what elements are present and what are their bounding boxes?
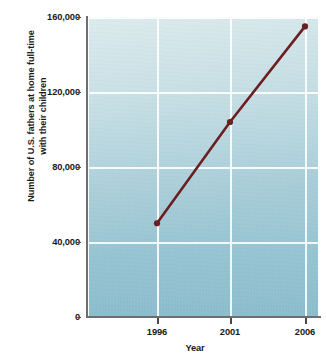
plot-area	[89, 17, 318, 317]
chart-figure: Number of U.S. fathers at home full-time…	[0, 0, 326, 361]
x-tick-mark	[157, 318, 159, 324]
y-tick-label: 160,000	[26, 12, 80, 22]
y-tick-label: 0	[26, 312, 80, 322]
y-tick-mark	[76, 167, 81, 168]
data-series	[89, 17, 318, 317]
x-axis-title: Year	[0, 343, 326, 353]
x-tick-label: 2001	[200, 327, 260, 337]
x-tick-label: 2006	[275, 327, 326, 337]
y-tick-label: 120,000	[26, 87, 80, 97]
x-tick-mark	[305, 318, 307, 324]
y-tick-mark	[76, 92, 81, 93]
x-tick-label: 1996	[127, 327, 187, 337]
x-tick-mark	[230, 318, 232, 324]
y-tick-mark	[76, 17, 81, 18]
y-axis-ticks: 040,00080,000120,000160,000	[18, 0, 80, 361]
data-point-marker	[227, 119, 233, 125]
x-axis-line	[86, 316, 321, 318]
y-tick-label: 40,000	[26, 237, 80, 247]
y-tick-mark	[76, 242, 81, 243]
y-axis-line	[86, 16, 88, 318]
data-point-marker	[302, 23, 308, 29]
x-axis-title-text: Year	[185, 343, 204, 353]
data-point-marker	[154, 220, 160, 226]
y-tick-label: 80,000	[26, 162, 80, 172]
y-tick-mark	[76, 317, 81, 318]
